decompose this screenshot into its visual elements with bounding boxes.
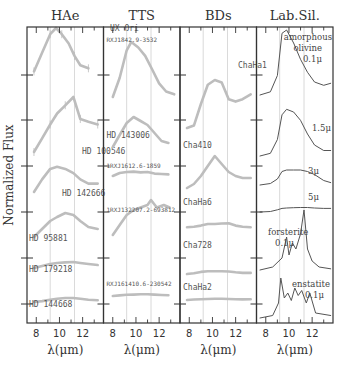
lab-label: 1.5μ [312, 123, 332, 133]
spectrum-line [187, 223, 251, 227]
x-axis-label: λ(μm) [200, 343, 236, 357]
panel-tts: 81012λ(μm)TTSRXJ1842.9-3532HD 1430061RXJ… [98, 8, 181, 357]
spectrum-label: RXJ1842.9-3532 [107, 36, 158, 43]
spectrum-label: HD 142666 [62, 189, 106, 198]
x-tick-label: 8 [263, 328, 269, 339]
lab-label: enstatite [292, 279, 330, 289]
lab-label: 0.1μ [303, 54, 323, 64]
panel-hae: 81012λ(μm)HAeUX OriHD 100546HD 142666HD … [21, 8, 139, 357]
spectrum-line [260, 210, 331, 270]
panel-title: Lab.Sil. [270, 8, 320, 23]
panel-title: HAe [51, 8, 80, 23]
spectrum-line [187, 299, 251, 300]
lab-label: 3μ [308, 166, 319, 176]
spectrum-label: HD 144668 [29, 300, 73, 309]
spectrum-label: 1RXJ132207.2-693812 [107, 206, 176, 213]
spectrum-line [187, 80, 251, 128]
figure: 81012λ(μm)HAeUX OriHD 100546HD 142666HD … [0, 0, 347, 365]
x-axis-label: λ(μm) [277, 343, 313, 357]
spectrum-line [113, 294, 169, 296]
spectrum-label: ChaHa6 [183, 198, 212, 207]
spectrum-label: Cha728 [183, 241, 212, 250]
x-tick-label: 12 [153, 328, 166, 339]
panel-frame [27, 27, 104, 323]
spectrum-line [187, 156, 251, 188]
spectrum-label: 1RXJ1612.6-1859 [107, 162, 162, 169]
x-tick-label: 12 [306, 328, 319, 339]
spectrum-line [113, 42, 174, 97]
lab-label: olivine [293, 43, 322, 53]
spectrum-label: HD 95881 [29, 234, 68, 243]
panel-title: BDs [205, 8, 232, 23]
x-tick-label: 10 [206, 328, 219, 339]
x-tick-label: 10 [283, 328, 296, 339]
spectrum-line [34, 28, 88, 71]
x-tick-label: 12 [229, 328, 242, 339]
spectrum-label: RXJ161410.6-230542 [107, 280, 172, 287]
lab-label: 0.1μ [275, 238, 295, 248]
spectrum-line [260, 208, 331, 213]
x-tick-label: 8 [186, 328, 192, 339]
spectrum-label: Cha410 [183, 141, 212, 150]
y-axis-label: Normalized Flux [2, 124, 16, 225]
lab-label: 5μ [308, 192, 319, 202]
x-tick-label: 8 [110, 328, 116, 339]
x-tick-label: 10 [53, 328, 66, 339]
spectrum-line [113, 172, 169, 176]
panel-frame [180, 27, 257, 323]
spectrum-label: HD 143006 [107, 131, 151, 140]
x-axis-label: λ(μm) [47, 343, 83, 357]
spectrum-line [187, 271, 251, 274]
panel-title: TTS [129, 8, 156, 23]
spectrum-line [34, 97, 98, 152]
x-tick-label: 10 [130, 328, 143, 339]
lab-label: 0.1μ [305, 290, 325, 300]
spectrum-label: ChaHa2 [183, 283, 212, 292]
x-tick-label: 12 [76, 328, 89, 339]
spectrum-label: ChaHa1 [238, 61, 267, 70]
panel-bds: 81012λ(μm)BDsChaHa1Cha410ChaHa6Cha728Cha… [174, 8, 267, 357]
spectrum-label: HD 179218 [29, 265, 73, 274]
lab-label: amorphous [284, 32, 332, 42]
x-tick-label: 8 [33, 328, 39, 339]
lab-label: forsterite [268, 227, 308, 237]
spectrum-line [260, 170, 331, 185]
x-axis-label: λ(μm) [124, 343, 160, 357]
